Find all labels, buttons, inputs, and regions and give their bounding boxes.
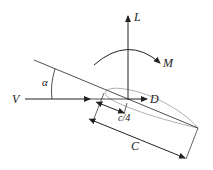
- diagram-svg: L M V D α c/4 C: [0, 0, 213, 170]
- trailing-edge-extension: [186, 128, 198, 159]
- chord-line: [34, 60, 198, 128]
- velocity-label: V: [12, 92, 21, 106]
- moment-arrow: [94, 49, 160, 65]
- quarter-chord-label: c/4: [118, 112, 130, 123]
- lift-label: L: [133, 10, 141, 24]
- leading-edge-extension: [93, 93, 104, 121]
- chord-dimension: [94, 121, 185, 158]
- alpha-label: α: [42, 76, 48, 88]
- drag-label: D: [149, 92, 159, 106]
- moment-label: M: [162, 56, 174, 70]
- airfoil-diagram: L M V D α c/4 C: [0, 0, 213, 170]
- alpha-arc: [51, 69, 55, 99]
- chord-label: C: [131, 139, 140, 153]
